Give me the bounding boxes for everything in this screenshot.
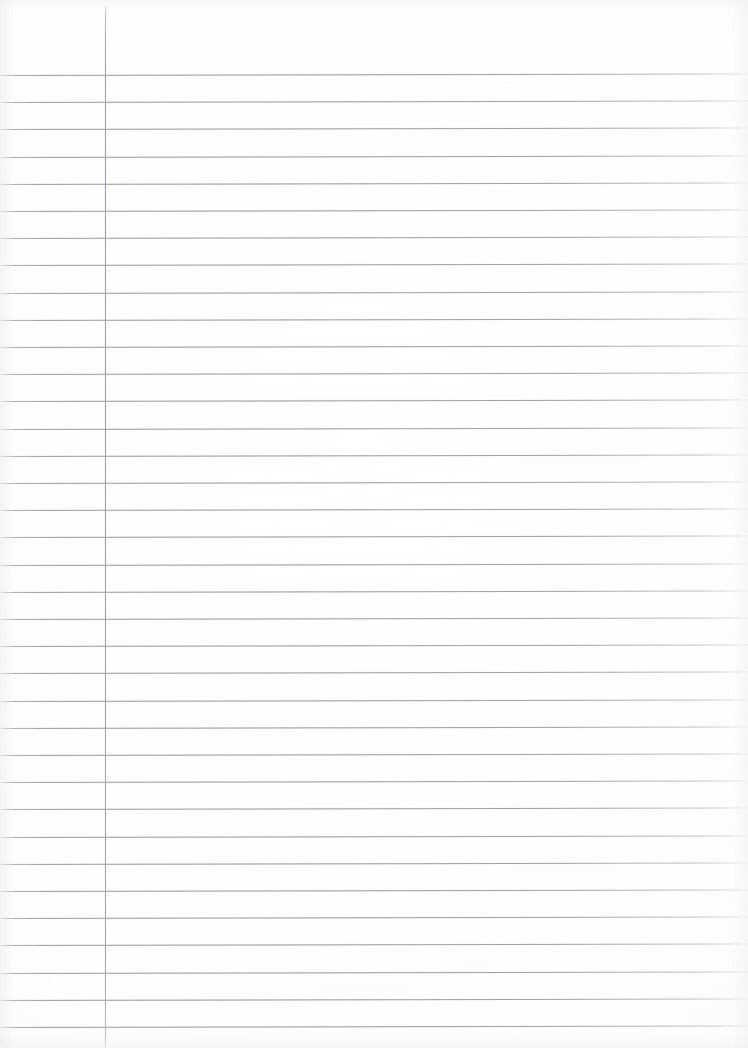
writing-area[interactable] <box>106 0 748 1048</box>
notebook-page <box>0 0 748 1048</box>
